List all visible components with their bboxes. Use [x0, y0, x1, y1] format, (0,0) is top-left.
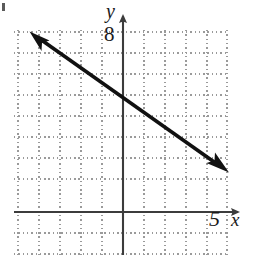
coordinate-plane-figure: y x 8 5 — [0, 0, 254, 278]
y-axis-tick-label: 8 — [104, 24, 115, 45]
x-axis-tick-label: 5 — [209, 208, 220, 230]
y-axis-label: y — [106, 1, 115, 21]
grid-lines — [14, 30, 228, 255]
axes — [14, 16, 238, 255]
line-arrowhead-end — [207, 153, 230, 173]
x-axis-label: x — [231, 210, 239, 229]
graph-canvas — [0, 0, 254, 278]
